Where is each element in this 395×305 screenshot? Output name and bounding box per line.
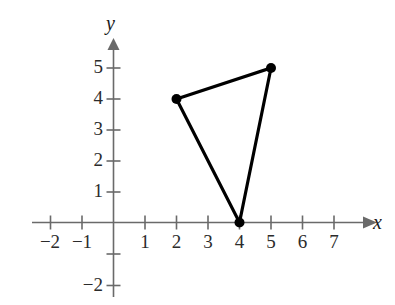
x-tick-label-7: 7 xyxy=(329,231,339,252)
coordinate-plot-svg: −2 −1 1 2 3 4 5 6 7 −2 1 2 3 4 5 x y xyxy=(0,0,395,305)
x-tick-label-4: 4 xyxy=(235,231,245,252)
axes-group xyxy=(32,38,377,297)
x-tick-label--1: −1 xyxy=(72,231,92,252)
y-tick-label-3: 3 xyxy=(94,118,104,139)
vertex-point-a xyxy=(172,94,182,104)
x-axis-tick-labels: −2 −1 1 2 3 4 5 6 7 xyxy=(40,231,339,252)
triangle-outline xyxy=(177,68,272,223)
y-axis-label: y xyxy=(104,12,115,35)
x-tick-label-6: 6 xyxy=(298,231,308,252)
y-tick-label-1: 1 xyxy=(94,180,104,201)
y-tick-label-5: 5 xyxy=(94,56,104,77)
y-tick-label-2: 2 xyxy=(94,149,104,170)
x-tick-label-3: 3 xyxy=(203,231,213,252)
y-tick-label--2: −2 xyxy=(83,274,103,295)
x-axis-label: x xyxy=(372,211,382,233)
y-axis-arrowhead xyxy=(108,38,120,50)
vertex-point-c xyxy=(235,218,245,228)
y-axis-tick-labels: −2 1 2 3 4 5 xyxy=(83,56,104,295)
x-tick-label--2: −2 xyxy=(40,231,60,252)
x-tick-label-2: 2 xyxy=(172,231,182,252)
y-tick-label-4: 4 xyxy=(94,87,104,108)
x-tick-label-1: 1 xyxy=(140,231,150,252)
triangle-shape xyxy=(172,63,277,228)
coordinate-plane-figure: −2 −1 1 2 3 4 5 6 7 −2 1 2 3 4 5 x y xyxy=(0,0,395,305)
vertex-point-b xyxy=(266,63,276,73)
x-tick-label-5: 5 xyxy=(266,231,276,252)
